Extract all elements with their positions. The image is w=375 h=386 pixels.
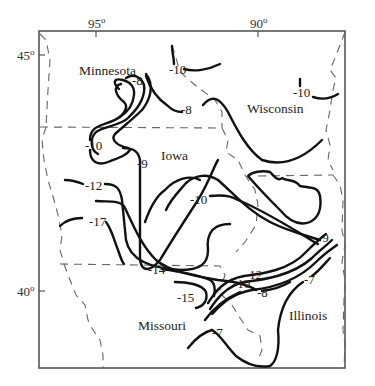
- contour-label: -12: [85, 178, 102, 193]
- contour-label: -7: [304, 272, 315, 287]
- state-label-minnesota: Minnesota: [79, 63, 136, 78]
- contour-label: -8: [181, 102, 192, 117]
- contour-label: -8: [257, 285, 268, 300]
- latitude-label-40: 40o: [17, 283, 35, 299]
- state-label-illinois: Illinois: [289, 308, 327, 323]
- contour-map: 95o 90o 45o 40o: [0, 0, 375, 386]
- contour-label: -14: [148, 262, 166, 277]
- state-label-missouri: Missouri: [138, 318, 186, 333]
- contour-label: -10: [190, 192, 207, 207]
- longitude-label-95: 95o: [88, 15, 106, 31]
- contour-label: -10: [85, 138, 102, 153]
- contour-label: -7: [212, 325, 223, 340]
- state-label-iowa: Iowa: [161, 148, 188, 163]
- contour-label: -10: [293, 85, 310, 100]
- latitude-label-45: 45o: [17, 47, 35, 63]
- contour-label: -9: [137, 156, 148, 171]
- contour-label: -15: [177, 290, 194, 305]
- contour-label: -9: [318, 230, 329, 245]
- longitude-label-90: 90o: [250, 15, 268, 31]
- state-label-wisconsin: Wisconsin: [247, 101, 304, 116]
- contour-label: -10: [169, 62, 186, 77]
- contour-label: -10: [233, 276, 250, 291]
- contour-label: -17: [89, 214, 107, 229]
